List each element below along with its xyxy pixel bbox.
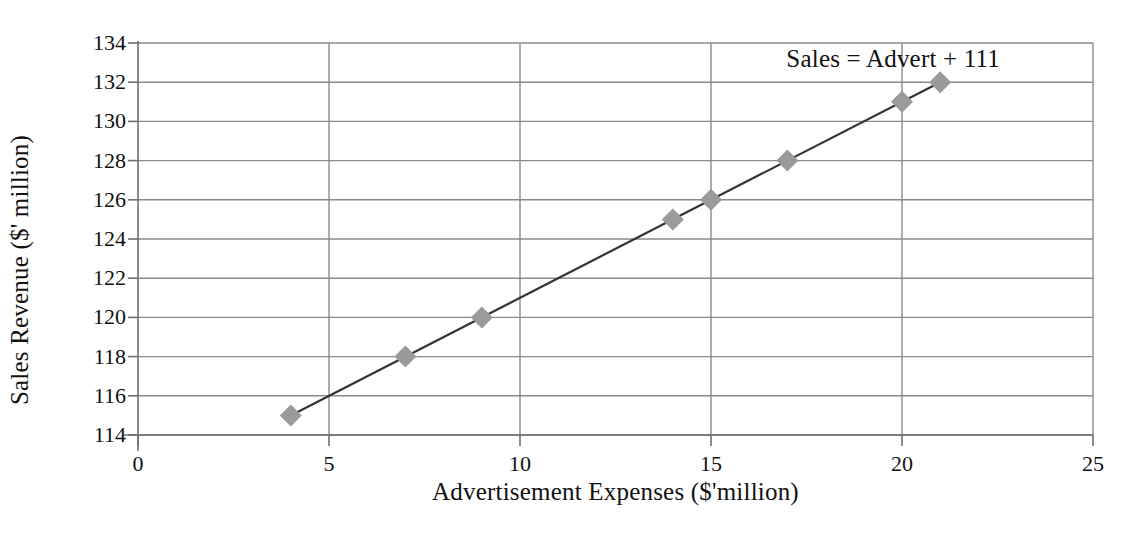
data-point-marker: [280, 404, 302, 426]
x-axis-tick-label: 5: [324, 451, 335, 477]
data-point-marker: [776, 150, 798, 172]
axis-ticks: [128, 43, 1093, 446]
y-axis-tick-label: 128: [76, 148, 126, 174]
x-axis-tick-label: 10: [509, 451, 531, 477]
data-point-marker: [471, 306, 493, 328]
axis-lines: [124, 41, 1093, 451]
x-axis-title: Advertisement Expenses ($'million): [138, 478, 1093, 506]
regression-equation-annotation: Sales = Advert + 111: [786, 45, 1000, 73]
x-axis-tick-label: 15: [700, 451, 722, 477]
y-axis-tick-label: 130: [76, 108, 126, 134]
trend-line: [291, 82, 940, 415]
y-axis-tick-label: 120: [76, 304, 126, 330]
data-point-marker: [700, 189, 722, 211]
data-point-marker: [891, 91, 913, 113]
data-point-marker: [394, 346, 416, 368]
y-axis-tick-label: 116: [76, 383, 126, 409]
y-axis-tick-label: 118: [76, 344, 126, 370]
y-axis-tick-label: 124: [76, 226, 126, 252]
x-axis-tick-label: 25: [1082, 451, 1104, 477]
y-axis-tick-label: 132: [76, 69, 126, 95]
y-axis-tick-label: 122: [76, 265, 126, 291]
x-axis-tick-label: 0: [133, 451, 144, 477]
y-axis-tick-label: 134: [76, 30, 126, 56]
scatter-chart: Sales Revenue ($' million) 1141161181201…: [0, 0, 1128, 540]
horizontal-gridlines: [138, 43, 1093, 435]
data-point-marker: [662, 208, 684, 230]
y-axis-tick-label: 114: [76, 422, 126, 448]
plot-area: [0, 0, 1128, 540]
x-axis-tick-label: 20: [891, 451, 913, 477]
trend-line-segment: [291, 82, 940, 415]
y-axis-tick-label: 126: [76, 187, 126, 213]
data-point-marker: [929, 71, 951, 93]
